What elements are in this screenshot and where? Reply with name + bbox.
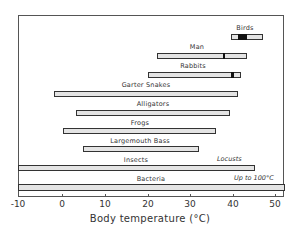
bar-insects xyxy=(18,165,255,171)
annotation-up-to-100: Up to 100°C xyxy=(234,174,274,182)
bar-garter-snakes xyxy=(54,91,238,97)
label-garter-snakes: Garter Snakes xyxy=(122,81,171,89)
tick-20 xyxy=(148,194,149,197)
tick-40 xyxy=(233,194,234,197)
tick-label-40: 40 xyxy=(227,199,238,209)
tick-50 xyxy=(275,194,276,197)
label-alligators: Alligators xyxy=(137,100,170,108)
label-man: Man xyxy=(190,43,204,51)
bar-bacteria xyxy=(18,184,285,191)
label-birds: Birds xyxy=(236,24,253,32)
label-frogs: Frogs xyxy=(131,119,149,127)
tick-label-20: 20 xyxy=(142,199,153,209)
tick-label-10: 10 xyxy=(99,199,110,209)
tick-label-50: 50 xyxy=(269,199,280,209)
label-largemouth-bass: Largemouth Bass xyxy=(110,137,170,145)
label-insects: Insects xyxy=(124,156,148,164)
tick-0 xyxy=(62,194,63,197)
tick-10 xyxy=(105,194,106,197)
x-axis-label: Body temperature (°C) xyxy=(0,213,300,224)
bar-alligators xyxy=(76,110,230,116)
bar-rabbits xyxy=(148,72,241,78)
tick-30 xyxy=(190,194,191,197)
label-rabbits: Rabbits xyxy=(180,62,206,70)
tick-label-30: 30 xyxy=(184,199,195,209)
bar-birds xyxy=(231,34,263,40)
bar-frogs xyxy=(63,128,216,134)
label-bacteria: Bacteria xyxy=(137,175,166,183)
bar-man xyxy=(157,53,247,59)
man-normal-marker xyxy=(223,53,225,59)
tick-label-0: 0 xyxy=(59,199,65,209)
tick-label--10: -10 xyxy=(11,199,26,209)
birds-normal-range xyxy=(238,34,247,40)
plot-frame: Birds Man Rabbits Garter Snakes Alligato… xyxy=(18,15,284,197)
rabbits-normal-marker xyxy=(231,72,234,78)
annotation-locusts: Locusts xyxy=(217,155,242,163)
bar-largemouth-bass xyxy=(83,146,199,152)
